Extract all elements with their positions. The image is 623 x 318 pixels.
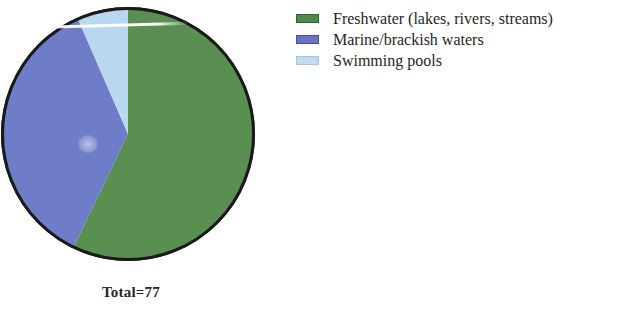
legend-item-freshwater[interactable]: Freshwater (lakes, rivers, streams) — [296, 8, 620, 29]
legend-swatch-marine-icon — [296, 35, 319, 44]
pie-svg — [0, 0, 280, 272]
legend-swatch-freshwater-icon — [296, 14, 319, 23]
legend-item-marine[interactable]: Marine/brackish waters — [296, 29, 620, 50]
legend: Freshwater (lakes, rivers, streams) Mari… — [296, 8, 620, 71]
legend-item-swimming-pools[interactable]: Swimming pools — [296, 50, 620, 71]
legend-swatch-swimming-pools-icon — [296, 56, 319, 65]
pie-chart-figure: Total=77 Freshwater (lakes, rivers, stre… — [0, 0, 623, 318]
total-caption: Total=77 — [0, 284, 262, 301]
legend-label-freshwater: Freshwater (lakes, rivers, streams) — [333, 9, 553, 28]
legend-label-marine: Marine/brackish waters — [333, 30, 484, 49]
pie-chart-graphic — [0, 0, 280, 272]
legend-label-swimming-pools: Swimming pools — [333, 51, 442, 70]
